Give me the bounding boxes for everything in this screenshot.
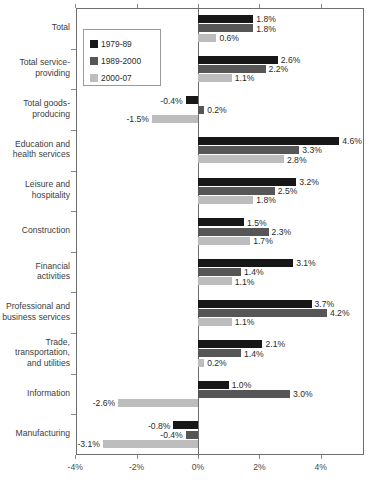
legend-swatch-icon-1989-2000 [90,57,98,65]
bar-0[interactable] [198,218,244,226]
bar-2[interactable] [198,34,216,42]
bar-value-label: 3.2% [299,178,319,186]
bar-value-label: 1.4% [244,268,264,276]
category-label-line: Manufacturing [16,428,70,439]
bar-value-label: 1.1% [235,74,255,82]
y-axis-tick-mark [71,211,76,212]
bar-2[interactable] [198,359,204,367]
bar-1[interactable] [198,187,275,195]
category-label-line: Trade, [15,337,70,348]
bar-2[interactable] [103,440,198,448]
x-tick-mark [137,4,138,8]
bar-0[interactable] [198,300,312,308]
category-label: Total goods-producing [23,98,70,119]
bar-value-label: -3.1% [77,440,99,448]
bar-2[interactable] [198,155,284,163]
bar-2[interactable] [198,196,253,204]
legend-swatch-icon-2000-07 [90,74,98,82]
x-tick-mark [259,455,260,459]
bar-1[interactable] [198,228,269,236]
y-axis-tick-mark [71,171,76,172]
category-label-line: Information [27,388,70,399]
category-label: Manufacturing [16,428,70,439]
category-label: Financialactivities [36,261,70,282]
grouped-bar-chart: -4%-2%0%2%4%Total1.8%1.8%0.6%Total servi… [0,0,375,489]
category-label: Trade,transportation,and utilities [15,337,70,369]
bar-0[interactable] [198,259,293,267]
bar-value-label: 2.3% [272,228,292,236]
bar-0[interactable] [198,340,262,348]
bar-value-label: 2.2% [269,65,289,73]
bar-value-label: 2.8% [287,156,307,164]
bar-2[interactable] [152,115,198,123]
bar-2[interactable] [198,277,232,285]
bar-value-label: 1.5% [247,219,267,227]
bar-1[interactable] [198,106,204,114]
bar-1[interactable] [198,349,241,357]
legend-label-1: 1989-2000 [101,56,141,66]
bar-value-label: 0.2% [207,359,227,367]
bar-value-label: 3.1% [296,259,316,267]
legend-item-1[interactable]: 1989-2000 [90,52,160,69]
bar-1[interactable] [198,146,299,154]
bar-value-label: 2.6% [281,56,301,64]
category-label: Information [27,388,70,399]
bar-0[interactable] [198,137,339,145]
bar-0[interactable] [186,96,198,104]
legend-swatch-icon-1979-89 [90,40,98,48]
bar-value-label: 1.8% [256,25,276,33]
x-axis-tick-label: 0% [178,462,218,472]
y-axis-tick-mark [71,252,76,253]
legend-label-2: 2000-07 [101,73,132,83]
legend-item-2[interactable]: 2000-07 [90,69,160,86]
bar-value-label: 1.8% [256,15,276,23]
y-axis-tick-mark [71,374,76,375]
category-label-line: Construction [22,225,70,236]
bar-0[interactable] [173,421,198,429]
bar-value-label: 1.8% [256,196,276,204]
bar-0[interactable] [198,381,229,389]
category-label-line: transportation, [15,347,70,358]
bar-2[interactable] [198,74,232,82]
bar-0[interactable] [198,56,278,64]
category-label-line: hospitality [25,190,70,201]
x-axis-tick-label: 4% [301,462,341,472]
legend-item-0[interactable]: 1979-89 [90,35,160,52]
category-label-line: and utilities [15,358,70,369]
chart-legend: 1979-89 1989-2000 2000-07 [83,29,161,86]
bar-value-label: 3.0% [293,390,313,398]
bar-1[interactable] [186,431,198,439]
category-label: Professional andbusiness services [2,301,70,322]
bar-2[interactable] [118,399,198,407]
category-label-line: Total service- [19,57,70,68]
bar-2[interactable] [198,318,232,326]
bar-1[interactable] [198,268,241,276]
bar-value-label: -2.6% [93,399,115,407]
bar-value-label: 1.0% [232,381,252,389]
x-axis-tick-label: -4% [55,462,95,472]
category-label-line: Total [52,22,70,33]
bar-value-label: 3.7% [315,300,335,308]
bar-value-label: 1.1% [235,278,255,286]
bar-value-label: 0.2% [207,106,227,114]
x-tick-mark [75,455,76,459]
bar-1[interactable] [198,24,253,32]
x-axis-tick-label: -2% [117,462,157,472]
bar-1[interactable] [198,390,290,398]
bar-2[interactable] [198,237,250,245]
bar-value-label: 3.3% [302,146,322,154]
bar-1[interactable] [198,65,266,73]
y-axis-tick-mark [71,89,76,90]
y-axis-tick-mark [71,130,76,131]
bar-value-label: -0.4% [160,431,182,439]
bar-1[interactable] [198,309,327,317]
category-label: Construction [22,225,70,236]
x-tick-mark [137,455,138,459]
bar-0[interactable] [198,178,296,186]
y-axis-tick-mark [71,292,76,293]
bar-value-label: -0.8% [148,422,170,430]
y-axis-tick-mark [71,333,76,334]
category-label-line: Financial [36,261,70,272]
bar-0[interactable] [198,15,253,23]
category-label-line: Total goods- [23,98,70,109]
